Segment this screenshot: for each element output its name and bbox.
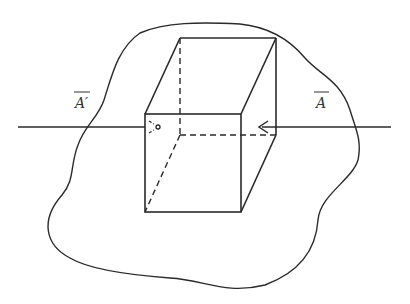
svg-text:A: A [314,95,326,111]
svg-text:A′: A′ [73,95,89,111]
region-outline [48,23,359,288]
diagram-canvas: A′ A [0,0,410,304]
label-right-vector: A [314,92,329,111]
arrow-left-icon [149,121,160,133]
cube-hidden-edges [145,38,276,212]
cube-visible-edges [145,38,276,212]
label-left-vector: A′ [73,92,90,111]
